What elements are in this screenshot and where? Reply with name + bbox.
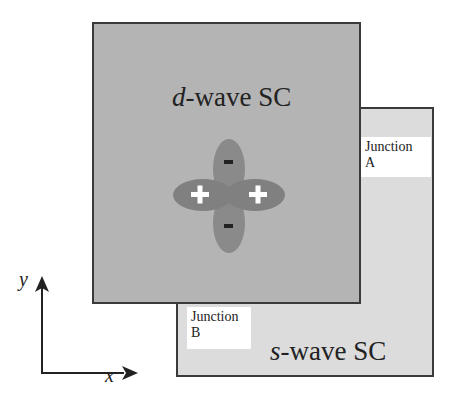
x-axis-arrowhead: [122, 366, 138, 380]
d-wave-orbital: [173, 139, 285, 253]
minus-sign-up: [224, 160, 233, 164]
y-axis-label: y: [19, 268, 28, 291]
x-axis-label: x: [105, 364, 114, 387]
diagram-graphics: [0, 0, 452, 403]
coordinate-axes: [35, 276, 138, 380]
minus-sign-down: [224, 224, 233, 228]
